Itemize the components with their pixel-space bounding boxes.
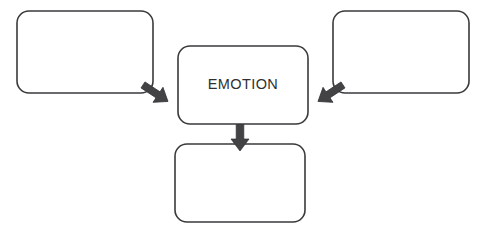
emotion-flow-diagram: EMOTION [0, 0, 484, 230]
right-box[interactable] [333, 11, 469, 93]
diagram-canvas: EMOTION [0, 0, 484, 230]
center-box-label: EMOTION [208, 76, 278, 92]
bottom-box[interactable] [175, 144, 305, 222]
left-box[interactable] [17, 11, 153, 93]
